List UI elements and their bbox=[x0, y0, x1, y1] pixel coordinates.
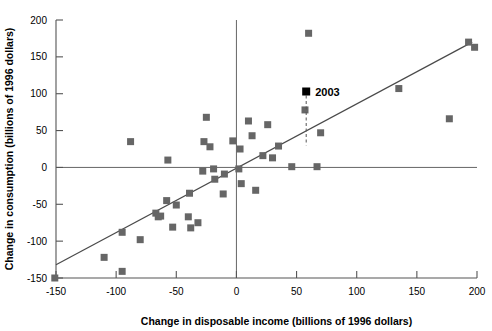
data-point-marker bbox=[187, 224, 194, 231]
data-point-marker bbox=[465, 39, 472, 46]
data-point-marker bbox=[238, 180, 245, 187]
x-tick-label: 200 bbox=[469, 286, 486, 297]
data-point-marker bbox=[275, 143, 282, 150]
data-point-marker bbox=[446, 115, 453, 122]
plot-area: -150-100-50050100150200-150-100-50050100… bbox=[0, 0, 492, 331]
data-point-marker bbox=[471, 44, 478, 51]
data-point-marker bbox=[395, 85, 402, 92]
y-tick-label: 150 bbox=[30, 51, 47, 62]
data-point-marker bbox=[203, 114, 210, 121]
x-tick-label: 150 bbox=[409, 286, 426, 297]
y-tick-label: -50 bbox=[33, 199, 48, 210]
x-tick-label: -50 bbox=[169, 286, 184, 297]
data-point-marker bbox=[249, 132, 256, 139]
y-tick-label: 200 bbox=[30, 15, 47, 26]
data-point-marker bbox=[186, 190, 193, 197]
data-point-marker bbox=[269, 154, 276, 161]
data-point-marker bbox=[314, 163, 321, 170]
highlight-point-label: 2003 bbox=[315, 86, 339, 98]
highlight-point-marker bbox=[302, 88, 310, 96]
data-point-marker bbox=[173, 202, 180, 209]
data-point-marker bbox=[229, 137, 236, 144]
data-point-marker bbox=[317, 129, 324, 136]
data-point-marker bbox=[194, 219, 201, 226]
data-point-marker bbox=[119, 229, 126, 236]
x-tick-label: -100 bbox=[106, 286, 126, 297]
x-tick-label: 50 bbox=[291, 286, 303, 297]
x-tick-label: 100 bbox=[348, 286, 365, 297]
y-tick-label: -100 bbox=[27, 236, 47, 247]
y-tick-label: 50 bbox=[36, 125, 48, 136]
scatter-chart: -150-100-50050100150200-150-100-50050100… bbox=[0, 0, 492, 331]
data-point-marker bbox=[206, 143, 213, 150]
data-point-marker bbox=[245, 117, 252, 124]
y-tick-label: 100 bbox=[30, 88, 47, 99]
x-tick-label: 0 bbox=[234, 286, 240, 297]
data-point-marker bbox=[137, 236, 144, 243]
data-point-marker bbox=[51, 275, 58, 282]
data-point-marker bbox=[164, 157, 171, 164]
data-point-marker bbox=[200, 138, 207, 145]
data-point-marker bbox=[301, 106, 308, 113]
x-axis-title: Change in disposable income (billions of… bbox=[141, 315, 412, 327]
y-tick-label: -150 bbox=[27, 273, 47, 284]
data-point-marker bbox=[119, 268, 126, 275]
data-point-marker bbox=[288, 163, 295, 170]
data-point-marker bbox=[237, 146, 244, 153]
data-point-marker bbox=[259, 152, 266, 159]
x-tick-label: -150 bbox=[46, 286, 66, 297]
data-point-marker bbox=[185, 213, 192, 220]
data-point-marker bbox=[264, 121, 271, 128]
data-point-marker bbox=[221, 171, 228, 178]
data-point-marker bbox=[211, 176, 218, 183]
data-point-marker bbox=[305, 30, 312, 37]
y-tick-label: 0 bbox=[41, 162, 47, 173]
data-point-marker bbox=[235, 165, 242, 172]
data-point-marker bbox=[101, 254, 108, 261]
data-point-marker bbox=[163, 197, 170, 204]
data-point-marker bbox=[199, 168, 206, 175]
data-point-marker bbox=[127, 138, 134, 145]
y-axis-title: Change in consumption (billions of 1996 … bbox=[3, 28, 15, 271]
data-point-marker bbox=[220, 190, 227, 197]
data-point-marker bbox=[210, 165, 217, 172]
data-point-marker bbox=[169, 224, 176, 231]
data-point-marker bbox=[157, 213, 164, 220]
data-point-marker bbox=[252, 187, 259, 194]
